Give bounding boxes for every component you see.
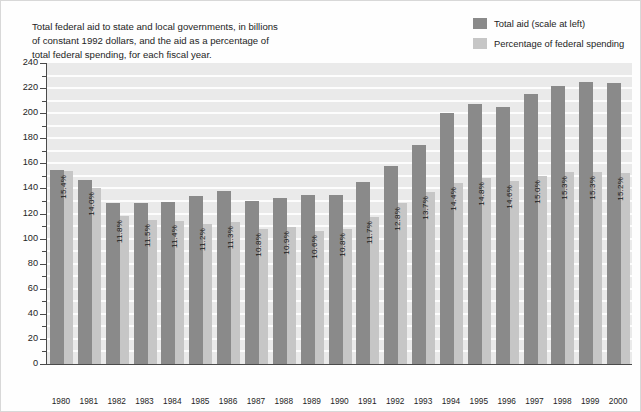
x-axis-label: 1983	[135, 396, 153, 406]
x-axis-label: 1997	[525, 396, 543, 406]
y-axis-tick-major	[40, 314, 47, 315]
y-axis-tick-minor	[42, 126, 47, 127]
gridline	[47, 100, 632, 102]
bar-percentage-label: 15.0%	[533, 180, 542, 204]
x-axis-label: 1988	[275, 396, 293, 406]
bar-total-aid	[329, 195, 343, 364]
x-axis-label: 1980	[52, 396, 70, 406]
bar-total-aid	[607, 83, 621, 364]
bar-total-aid	[356, 182, 370, 364]
legend-label-percentage: Percentage of federal spending	[494, 38, 624, 49]
y-axis-label: 120	[8, 208, 38, 218]
y-axis-tick-minor	[42, 301, 47, 302]
y-axis-tick-minor	[42, 276, 47, 277]
bar-percentage-label: 15.3%	[560, 176, 569, 200]
bar-percentage-label: 10.9%	[282, 231, 291, 255]
y-axis-tick-minor	[42, 151, 47, 152]
x-axis-label: 1991	[358, 396, 376, 406]
y-axis-label: 200	[8, 107, 38, 117]
bar-percentage-label: 12.8%	[393, 207, 402, 231]
bar-total-aid	[245, 201, 259, 364]
bar-total-aid	[189, 196, 203, 364]
y-axis-label: 160	[8, 157, 38, 167]
bar-percentage-label: 13.7%	[421, 196, 430, 220]
bar-total-aid	[468, 104, 482, 364]
bar-percentage-label: 10.6%	[310, 235, 319, 259]
bar-percentage-label: 15.3%	[588, 176, 597, 200]
y-axis-tick-major	[40, 264, 47, 265]
gridline	[47, 75, 632, 77]
y-axis-tick-minor	[42, 176, 47, 177]
y-axis-label: 180	[8, 132, 38, 142]
gridline	[47, 125, 632, 127]
bar-total-aid	[384, 166, 398, 364]
x-axis-label: 1992	[386, 396, 404, 406]
y-axis-label: 0	[8, 358, 38, 368]
bar-percentage-label: 11.8%	[115, 220, 124, 243]
y-axis-tick-major	[40, 339, 47, 340]
plot-area: 15.4%14.0%11.8%11.5%11.4%11.2%11.3%10.8%…	[47, 63, 632, 364]
legend-label-total-aid: Total aid (scale at left)	[494, 18, 585, 29]
gridline	[47, 137, 632, 139]
legend-swatch-percentage	[473, 38, 487, 49]
gridline	[47, 150, 632, 152]
y-axis-tick-major	[40, 138, 47, 139]
x-axis-line	[46, 364, 632, 365]
y-axis-labels: 020406080100120140160180200220240	[4, 0, 38, 412]
bar-percentage-label: 11.3%	[226, 226, 235, 249]
bar-total-aid	[301, 195, 315, 364]
bar-total-aid	[524, 94, 538, 364]
y-axis-tick-major	[40, 63, 47, 64]
x-axis-label: 1987	[247, 396, 265, 406]
chart-page: Total federal aid to state and local gov…	[0, 0, 641, 412]
bar-percentage-label: 10.8%	[338, 233, 347, 257]
legend-item-percentage: Percentage of federal spending	[473, 38, 633, 49]
x-axis-label: 1989	[302, 396, 320, 406]
y-axis-tick-minor	[42, 226, 47, 227]
y-axis-label: 80	[8, 258, 38, 268]
chart-caption: Total federal aid to state and local gov…	[32, 20, 362, 63]
bar-percentage-label: 14.0%	[87, 192, 96, 216]
y-axis-label: 60	[8, 283, 38, 293]
bar-total-aid	[217, 191, 231, 364]
gridline	[47, 112, 632, 114]
y-axis-tick-major	[40, 214, 47, 215]
y-axis-tick-minor	[42, 201, 47, 202]
bar-total-aid	[579, 82, 593, 364]
bar-total-aid	[551, 86, 565, 364]
gridline	[47, 87, 632, 89]
chart-legend: Total aid (scale at left) Percentage of …	[473, 18, 633, 58]
y-axis-tick-minor	[42, 101, 47, 102]
y-axis-tick-major	[40, 113, 47, 114]
y-axis-tick-major	[40, 88, 47, 89]
bar-percentage-label: 14.8%	[477, 182, 486, 206]
x-axis-label: 1993	[414, 396, 432, 406]
y-axis-tick-major	[40, 163, 47, 164]
bar-percentage-label: 10.8%	[254, 233, 263, 257]
bar-percentage-label: 11.5%	[143, 224, 152, 247]
bar-total-aid	[273, 198, 287, 364]
y-axis-tick-minor	[42, 351, 47, 352]
y-axis-label: 20	[8, 333, 38, 343]
x-axis-label: 1994	[442, 396, 460, 406]
x-axis-label: 1985	[191, 396, 209, 406]
x-axis-label: 1984	[163, 396, 181, 406]
y-axis-tick-major	[40, 239, 47, 240]
y-axis-label: 140	[8, 182, 38, 192]
gridline	[47, 162, 632, 164]
bar-total-aid	[50, 170, 64, 364]
bar-percentage-label: 11.7%	[365, 221, 374, 244]
y-axis-label: 40	[8, 308, 38, 318]
bar-total-aid	[496, 107, 510, 364]
y-axis-tick-major	[40, 364, 47, 365]
x-axis-label: 1986	[219, 396, 237, 406]
bar-percentage-label: 14.6%	[505, 185, 514, 209]
bar-percentage-label: 11.4%	[170, 225, 179, 248]
bar-percentage-label: 11.2%	[198, 228, 207, 251]
y-axis-label: 100	[8, 233, 38, 243]
y-axis-label: 240	[8, 57, 38, 67]
y-axis-label: 220	[8, 82, 38, 92]
x-axis-label: 1999	[581, 396, 599, 406]
bar-percentage-label: 15.2%	[616, 177, 625, 201]
legend-item-total-aid: Total aid (scale at left)	[473, 18, 633, 29]
